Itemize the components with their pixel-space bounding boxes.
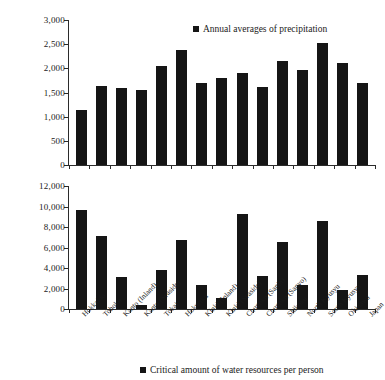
bar [196,83,207,165]
plot-area-precipitation: 05001,0001,5002,0002,5003,000 [68,20,375,166]
bar [317,43,328,165]
bar [357,83,368,165]
x-axis-tick-mark [89,165,90,169]
y-axis-tick-label: 4,000 [44,263,65,273]
y-axis-tick-label: 12,000 [39,181,65,191]
bar [337,63,348,165]
bar [176,240,187,309]
bar [76,210,87,309]
chart-panel-precipitation: 05001,0001,5002,0002,5003,000 mm/year An… [0,8,381,168]
y-axis-tick-label: 10,000 [39,202,65,212]
y-axis-tick-label: 500 [51,136,65,146]
x-axis-tick-mark [273,165,274,169]
x-axis-tick-mark [212,165,213,169]
bar [277,61,288,165]
y-axis-tick-label: 2,000 [44,284,65,294]
x-axis-tick-mark [232,165,233,169]
y-axis-tick-label: 2,500 [44,39,65,49]
x-axis-category-labels: HokkaidoTohokuKanto (Inland)Kanto (Seasi… [68,312,375,380]
legend-label-precipitation: Annual averages of precipitation [203,24,327,34]
x-axis-tick-mark [253,165,254,169]
x-axis-tick-mark [375,165,376,169]
x-axis-tick-mark [334,165,335,169]
y-axis-tick-label: 1,500 [44,88,65,98]
bar [76,110,87,165]
bar [116,88,127,165]
bar [297,70,308,165]
x-axis-tick-mark [293,165,294,169]
x-axis-tick-mark [69,165,70,169]
x-axis-ticks-top [69,165,375,169]
bar [136,90,147,165]
y-axis-tick-label: 0 [60,160,65,170]
y-axis-tick-label: 1,000 [44,112,65,122]
legend-swatch-icon [193,26,199,32]
y-axis-tick-label: 6,000 [44,243,65,253]
x-axis-tick-mark [355,165,356,169]
bar [96,86,107,165]
y-axis-tick-label: 3,000 [44,15,65,25]
x-axis-tick-mark [130,165,131,169]
bar [176,50,187,165]
bar [257,87,268,165]
x-axis-tick-mark [171,165,172,169]
y-axis-tick-label: 2,000 [44,63,65,73]
legend-precipitation: Annual averages of precipitation [193,24,327,34]
x-axis-tick-mark [110,165,111,169]
bar [156,66,167,165]
y-axis-tick-label: 8,000 [44,222,65,232]
bar-series-precipitation [69,20,375,165]
x-axis-tick-mark [151,165,152,169]
bar [237,73,248,165]
x-axis-tick-mark [191,165,192,169]
x-axis-tick-mark [314,165,315,169]
bar [216,78,227,165]
y-axis-tick-label: 0 [60,304,65,314]
